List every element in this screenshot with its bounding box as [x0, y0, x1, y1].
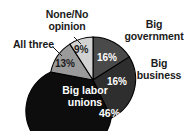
- value-label-all-three: 13%: [55, 58, 75, 69]
- label-big-business-line2: business: [130, 70, 188, 82]
- label-none-no-opinion: None/No opinion: [28, 9, 106, 32]
- label-big-government-line1: Big: [120, 19, 188, 31]
- label-big-government: Big government: [120, 19, 188, 42]
- label-big-business-line1: Big: [130, 58, 188, 70]
- label-big-labor-unions: Big labor unions 46%: [48, 85, 122, 120]
- label-all-three-line1: All three: [2, 39, 54, 51]
- label-big-government-line2: government: [120, 31, 188, 43]
- value-label-big-government: 16%: [97, 52, 117, 63]
- label-big-labor-unions-line1: Big labor: [48, 85, 122, 97]
- label-big-business: Big business: [130, 58, 188, 81]
- label-none-no-opinion-line2: opinion: [28, 21, 106, 33]
- label-none-no-opinion-line1: None/No: [28, 9, 106, 21]
- pie-chart-figure: None/No opinion All three Big government…: [0, 0, 188, 131]
- value-label-none-no-opinion: 9%: [74, 44, 88, 55]
- value-label-big-labor-unions: 46%: [48, 108, 122, 120]
- label-all-three: All three: [2, 39, 54, 51]
